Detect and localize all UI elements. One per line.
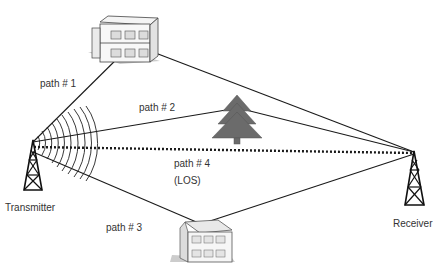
path2-line-a	[33, 108, 238, 142]
path1-line-b	[132, 44, 414, 152]
path4-label: path # 4	[174, 158, 210, 169]
receiver-label: Receiver	[393, 218, 432, 229]
path3-line-b	[201, 154, 414, 224]
transmitter-label: Transmitter	[5, 202, 55, 213]
path2-label: path # 2	[139, 102, 175, 113]
receiver-tower-icon	[405, 151, 424, 205]
multipath-diagram	[0, 0, 445, 277]
building-top-icon	[88, 16, 160, 64]
path2-line-b	[238, 108, 414, 152]
building-bottom-icon	[170, 220, 235, 262]
radio-waves-icon	[38, 106, 98, 181]
path4-sublabel: (LOS)	[174, 175, 201, 186]
path3-label: path # 3	[106, 222, 142, 233]
path1-label: path # 1	[40, 78, 76, 89]
tree-icon	[212, 95, 262, 144]
